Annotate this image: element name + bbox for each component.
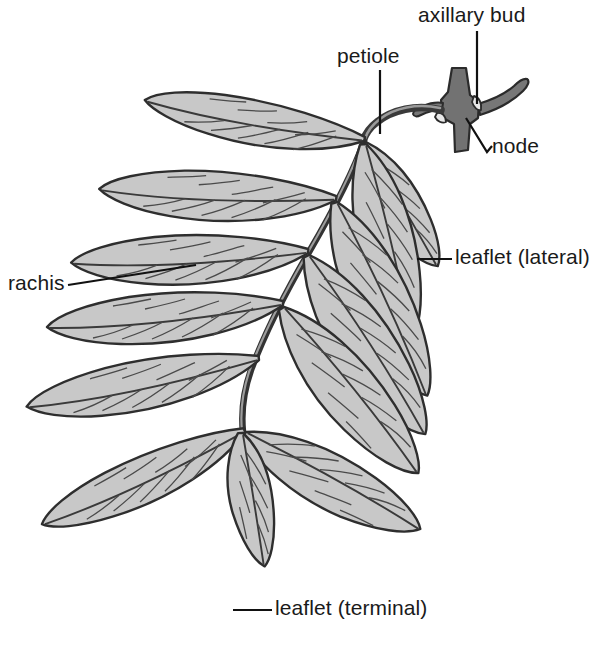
label-leaflet-terminal: leaflet (terminal): [275, 597, 427, 618]
label-leaflet-lateral: leaflet (lateral): [455, 246, 590, 267]
leaflet-blade: [141, 69, 367, 175]
label-rachis: rachis: [8, 272, 65, 293]
leaf-anatomy-diagram: axillary bud petiole node leaflet (later…: [0, 0, 599, 648]
leaflet-blade: [31, 421, 257, 539]
leaflet-blade: [70, 228, 308, 292]
leaflet-lateral-left-2: [97, 154, 338, 238]
leaflet-lateral-left-3: [70, 228, 308, 292]
leaflet-lateral-left-4: [47, 292, 283, 344]
twig-branch-right: [478, 79, 528, 115]
label-petiole: petiole: [337, 45, 400, 66]
leaflet-lateral-left-5: [23, 347, 263, 423]
twig-stem: [441, 68, 479, 152]
leaflet-lateral-left-1: [141, 69, 367, 175]
label-axillary-bud: axillary bud: [418, 4, 525, 25]
leaf-illustration: [0, 0, 599, 648]
leaflet-blade: [97, 154, 338, 238]
leaf-drawing: [23, 31, 528, 610]
label-node: node: [492, 135, 539, 156]
leaflet-lateral-left-6: [31, 421, 257, 539]
leaflet-blade: [23, 347, 263, 423]
leaflet-blade: [47, 292, 283, 344]
